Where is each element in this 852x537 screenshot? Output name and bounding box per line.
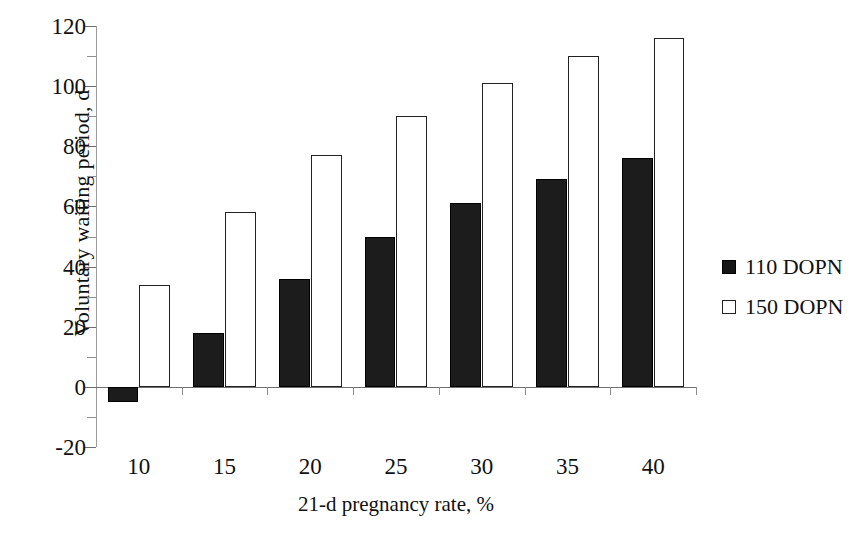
bar-group <box>193 26 256 447</box>
y-axis-minor-tick <box>87 176 96 177</box>
bar-110-dopn[interactable] <box>279 279 310 387</box>
chart-figure: Voluntary waiting period, d -20020406080… <box>0 0 852 537</box>
x-axis-tick <box>267 387 268 395</box>
bar-110-dopn[interactable] <box>622 158 653 387</box>
y-axis-minor-tick <box>87 357 96 358</box>
legend-item-label: 110 DOPN <box>745 256 843 278</box>
bar-150-dopn[interactable] <box>311 155 342 387</box>
y-axis-minor-tick <box>87 237 96 238</box>
bar-group <box>108 26 171 447</box>
y-axis-tick-label: 60 <box>63 195 86 218</box>
bar-110-dopn[interactable] <box>193 333 224 387</box>
bar-110-dopn[interactable] <box>536 179 567 386</box>
y-axis-major-tick <box>85 447 96 448</box>
x-axis-tick-label: 40 <box>642 455 665 478</box>
y-axis-tick-label: 100 <box>52 75 87 98</box>
filled-square-icon <box>722 260 736 274</box>
x-axis-tick-label: 15 <box>213 455 236 478</box>
bar-group <box>279 26 342 447</box>
bar-110-dopn[interactable] <box>365 237 396 387</box>
scan-artifact <box>0 518 160 530</box>
bar-150-dopn[interactable] <box>396 116 427 387</box>
x-axis-tick-label: 35 <box>556 455 579 478</box>
legend-item[interactable]: 150 DOPN <box>722 296 843 318</box>
x-axis-tick <box>182 387 183 395</box>
x-axis-tick <box>610 387 611 395</box>
y-axis-major-tick <box>85 327 96 328</box>
bar-150-dopn[interactable] <box>482 83 513 387</box>
y-axis-minor-tick <box>87 297 96 298</box>
bar-group <box>622 26 685 447</box>
y-axis-minor-tick <box>87 116 96 117</box>
y-axis-tick-label: 20 <box>63 315 86 338</box>
y-axis-tick-label: 0 <box>75 375 87 398</box>
x-axis-tick <box>525 387 526 395</box>
y-axis-major-tick <box>85 26 96 27</box>
bar-150-dopn[interactable] <box>225 212 256 386</box>
y-axis-tick-label: 120 <box>52 15 87 38</box>
y-axis-major-tick <box>85 86 96 87</box>
x-axis-tick <box>696 387 697 395</box>
y-axis-major-tick <box>85 146 96 147</box>
y-axis-tick-label: 40 <box>63 255 86 278</box>
legend-item-label: 150 DOPN <box>745 296 843 318</box>
y-axis-major-tick <box>85 206 96 207</box>
bar-150-dopn[interactable] <box>568 56 599 387</box>
y-axis-tick-label: 80 <box>63 135 86 158</box>
x-axis-tick-label: 10 <box>127 455 150 478</box>
x-axis-title: 21-d pregnancy rate, % <box>96 492 696 517</box>
y-axis-line <box>96 26 97 447</box>
bar-110-dopn[interactable] <box>450 203 481 386</box>
plot-area: -20020406080100120 <box>96 26 696 447</box>
x-axis-tick-label: 20 <box>299 455 322 478</box>
open-square-icon <box>722 300 736 314</box>
x-axis-tick-label: 30 <box>470 455 493 478</box>
y-axis-tick-label: -20 <box>55 436 86 459</box>
y-axis-major-tick <box>85 267 96 268</box>
bar-group <box>365 26 428 447</box>
y-axis-minor-tick <box>87 56 96 57</box>
bar-group <box>450 26 513 447</box>
bar-group <box>536 26 599 447</box>
x-axis-tick <box>439 387 440 395</box>
bar-110-dopn[interactable] <box>108 387 139 402</box>
legend-item[interactable]: 110 DOPN <box>722 256 843 278</box>
y-axis-minor-tick <box>87 417 96 418</box>
chart-legend: 110 DOPN150 DOPN <box>722 256 843 336</box>
bar-150-dopn[interactable] <box>139 285 170 387</box>
y-axis-major-tick <box>85 387 96 388</box>
x-axis-tick <box>353 387 354 395</box>
bar-150-dopn[interactable] <box>654 38 685 387</box>
x-axis-tick-label: 25 <box>385 455 408 478</box>
